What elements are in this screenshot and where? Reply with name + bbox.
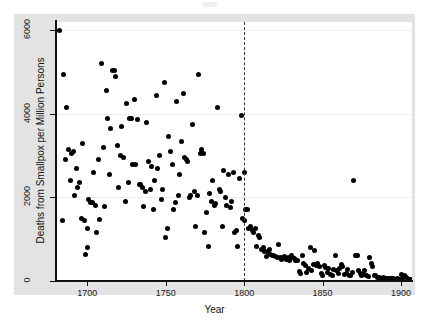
data-point: [367, 255, 372, 260]
plot-area: [56, 22, 412, 281]
data-point: [160, 187, 165, 192]
data-point: [82, 218, 87, 223]
data-point: [173, 200, 178, 205]
x-tick-1800: [244, 281, 245, 286]
data-point: [370, 264, 375, 269]
x-tick-1850: [323, 281, 324, 286]
data-point: [119, 124, 124, 129]
data-point: [107, 172, 112, 177]
data-point: [234, 228, 239, 233]
data-point: [336, 271, 341, 276]
data-point: [257, 235, 262, 240]
data-point: [159, 197, 164, 202]
data-point: [116, 185, 121, 190]
gridline-y-6000: [56, 30, 412, 31]
data-point: [124, 101, 129, 106]
data-point: [215, 105, 220, 110]
y-tick-4000: [50, 114, 55, 115]
data-point: [133, 162, 138, 167]
y-tick-6000: [50, 30, 55, 31]
data-point: [267, 247, 272, 252]
data-point: [126, 180, 131, 185]
data-point: [276, 242, 281, 247]
data-point: [102, 204, 107, 209]
y-ticklabel-6000: 6000: [22, 12, 32, 46]
top-artifact: [203, 2, 217, 7]
x-tick-1700: [87, 281, 88, 286]
x-ticklabel-1850: 1850: [303, 288, 343, 298]
data-point: [351, 178, 356, 183]
data-point: [309, 268, 314, 273]
x-axis-title: Year: [0, 304, 429, 315]
data-point: [235, 244, 240, 249]
x-ticklabel-1750: 1750: [146, 288, 186, 298]
data-point: [218, 189, 223, 194]
data-point: [210, 178, 215, 183]
y-axis-line: [55, 20, 57, 282]
data-point: [168, 149, 173, 154]
data-point: [57, 28, 62, 33]
data-point: [152, 178, 157, 183]
data-point: [355, 253, 360, 258]
data-point: [157, 153, 162, 158]
data-point: [195, 193, 200, 198]
data-point: [204, 210, 209, 215]
data-point: [207, 191, 212, 196]
data-point: [104, 88, 109, 93]
data-point: [239, 113, 244, 118]
y-axis-title: Deaths from Smallpox per Million Persons: [35, 36, 46, 266]
data-point: [99, 61, 104, 66]
y-tick-2000: [50, 197, 55, 198]
data-point: [68, 178, 73, 183]
y-ticklabel-0: 0: [22, 263, 32, 297]
y-ticklabel-2000: 2000: [22, 179, 32, 213]
data-point: [185, 159, 190, 164]
data-point: [220, 224, 225, 229]
data-point: [229, 199, 234, 204]
y-tick-0: [50, 281, 55, 282]
figure: 0200040006000 17001750180018501900 Death…: [0, 0, 429, 322]
data-point: [228, 205, 233, 210]
x-axis-line: [55, 280, 413, 282]
data-point: [144, 120, 149, 125]
x-tick-1900: [401, 281, 402, 286]
x-ticklabel-1700: 1700: [67, 288, 107, 298]
gridline-y-2000: [56, 197, 412, 198]
data-point: [64, 105, 69, 110]
data-point: [179, 139, 184, 144]
data-point: [105, 116, 110, 121]
data-point: [94, 230, 99, 235]
data-point: [148, 187, 153, 192]
data-point: [202, 230, 207, 235]
data-point: [320, 273, 325, 278]
x-tick-1750: [166, 281, 167, 286]
data-point: [132, 97, 137, 102]
data-point: [141, 204, 146, 209]
data-point: [333, 253, 338, 258]
data-point: [245, 207, 250, 212]
data-point: [253, 226, 258, 231]
data-point: [201, 151, 206, 156]
data-point: [71, 149, 76, 154]
data-point: [295, 258, 300, 263]
data-point: [149, 164, 154, 169]
data-point: [101, 145, 106, 150]
data-point: [151, 207, 156, 212]
data-point: [206, 244, 211, 249]
data-point: [113, 74, 118, 79]
data-point: [366, 274, 371, 279]
data-point: [80, 141, 85, 146]
data-point: [237, 176, 242, 181]
data-point: [93, 203, 98, 208]
data-point: [96, 157, 101, 162]
data-point: [60, 218, 65, 223]
x-ticklabel-1900: 1900: [381, 288, 421, 298]
data-point: [196, 72, 201, 77]
data-point: [300, 253, 305, 258]
data-point: [129, 116, 134, 121]
data-point: [171, 207, 176, 212]
data-point: [61, 72, 66, 77]
data-point: [312, 248, 317, 253]
data-point: [123, 199, 128, 204]
gridline-y-4000: [56, 114, 412, 115]
